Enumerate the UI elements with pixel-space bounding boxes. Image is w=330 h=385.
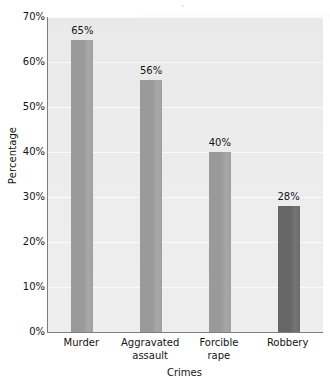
x-axis-tick-label: Robbery xyxy=(253,336,322,349)
gridline xyxy=(48,17,323,18)
y-axis-tick-label: 10% xyxy=(6,282,45,292)
x-axis-tick-label: Murder xyxy=(47,336,116,349)
bar xyxy=(278,206,300,332)
x-axis-tick-label: Aggravatedassault xyxy=(116,336,185,362)
y-axis-tick-label: 60% xyxy=(6,57,45,67)
bar-chart: Percentage 0%10%20%30%40%50%60%70% 65%56… xyxy=(0,0,330,385)
x-axis-tick-label-line: Murder xyxy=(47,336,116,349)
x-axis-tick-label-line: Robbery xyxy=(253,336,322,349)
x-axis-tick-label-line: Aggravated xyxy=(116,336,185,349)
scan-speck xyxy=(181,5,184,7)
y-axis-tick-label: 20% xyxy=(6,237,45,247)
x-axis-tick-label-line: Forcible xyxy=(185,336,254,349)
bar-value-label: 40% xyxy=(195,138,245,148)
x-axis-title: Crimes xyxy=(47,367,322,378)
x-axis-tick-label-line: rape xyxy=(185,349,254,362)
x-axis-tick-labels: MurderAggravatedassaultForciblerapeRobbe… xyxy=(47,336,322,370)
y-axis-tick-labels: 0%10%20%30%40%50%60%70% xyxy=(6,0,45,385)
bar-value-label: 28% xyxy=(264,192,314,202)
y-axis-tick-label: 70% xyxy=(6,12,45,22)
y-axis-tick-label: 30% xyxy=(6,192,45,202)
y-axis-tick-label: 40% xyxy=(6,147,45,157)
bar xyxy=(209,152,231,332)
bar-value-label: 56% xyxy=(126,66,176,76)
y-axis-tick-label: 50% xyxy=(6,102,45,112)
bar xyxy=(71,40,93,333)
y-axis-tick-label: 0% xyxy=(6,327,45,337)
x-axis-tick-label-line: assault xyxy=(116,349,185,362)
x-axis-tick-label: Forciblerape xyxy=(185,336,254,362)
plot-area: 65%56%40%28% xyxy=(47,17,323,333)
bar-value-label: 65% xyxy=(57,26,107,36)
bar xyxy=(140,80,162,332)
